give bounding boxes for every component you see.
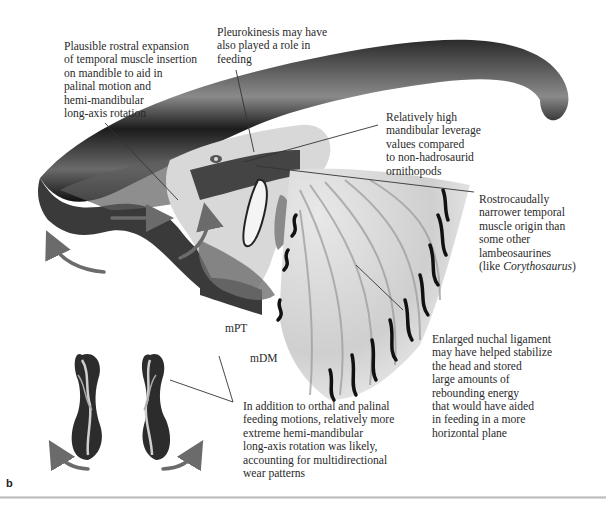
annotation-rostral-expansion: Plausible rostral expansion of temporal … bbox=[64, 40, 197, 120]
figure-panel-b: Plausible rostral expansion of temporal … bbox=[0, 0, 606, 507]
rotation-arrow-left-skull bbox=[52, 243, 104, 272]
left-hemi-mandible bbox=[72, 354, 102, 460]
annotation-hemi-mandibular-rotation: In addition to orthal and palinal feedin… bbox=[243, 400, 394, 480]
annotation-pleurokinesis: Pleurokinesis may have also played a rol… bbox=[217, 26, 327, 66]
panel-label: b bbox=[6, 477, 13, 489]
annotation-temporal-origin-close: ) bbox=[572, 260, 576, 273]
label-mpt: mPT bbox=[225, 322, 247, 334]
annotation-nuchal-ligament: Enlarged nuchal ligament may have helped… bbox=[432, 333, 552, 440]
annotation-temporal-origin: Rostrocaudally narrower temporal muscle … bbox=[479, 193, 576, 273]
annotation-mandibular-leverage: Relatively high mandibular leverage valu… bbox=[386, 111, 481, 178]
label-mdm: mDM bbox=[250, 352, 277, 364]
right-hemi-mandible bbox=[142, 354, 170, 460]
taxon-name: Corythosaurus bbox=[503, 260, 572, 273]
rotation-arrow-right-mandible bbox=[163, 452, 196, 469]
separator-rule bbox=[0, 496, 606, 499]
